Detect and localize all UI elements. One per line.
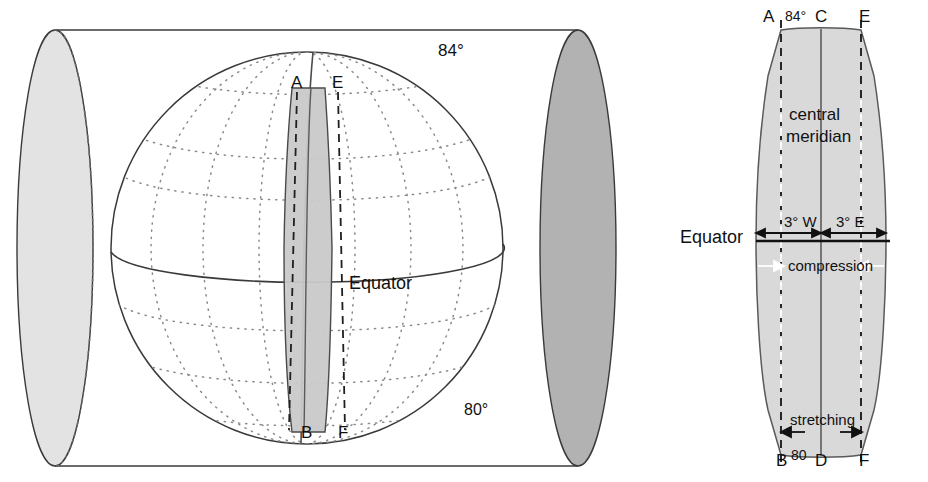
central-meridian-label-line2: meridian bbox=[786, 128, 851, 145]
right-equator-label: Equator bbox=[680, 228, 743, 246]
zone-east-label: 3° E bbox=[836, 214, 865, 229]
right-panel-graphic bbox=[0, 0, 928, 482]
zone-west-label: 3° W bbox=[784, 214, 817, 229]
right-lat-bottom-label: 80 bbox=[791, 448, 807, 462]
stretching-label: stretching bbox=[790, 412, 855, 427]
right-corner-b-label: B bbox=[776, 452, 787, 469]
right-corner-f-label: F bbox=[859, 452, 869, 469]
right-corner-a-label: A bbox=[763, 8, 774, 25]
right-corner-d-label: D bbox=[815, 452, 827, 469]
figure-root: 84° 80° Equator A E B F bbox=[0, 0, 928, 482]
right-corner-e-label: E bbox=[859, 8, 870, 25]
right-corner-c-label: C bbox=[815, 8, 827, 25]
right-lat-top-label: 84° bbox=[785, 9, 806, 23]
compression-label: compression bbox=[788, 258, 873, 273]
central-meridian-label-line1: central bbox=[789, 106, 840, 123]
